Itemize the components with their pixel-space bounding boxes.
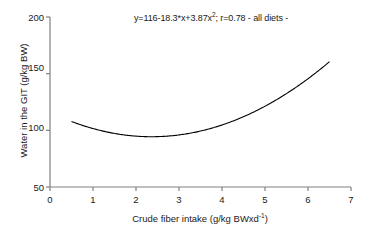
x-axis-ticks <box>50 187 351 191</box>
chart-figure: y=116-18.3*x+3.87x2; r=0.78 - all diets … <box>0 0 385 240</box>
plot-area <box>0 0 385 240</box>
regression-curve <box>72 62 330 137</box>
axis-lines <box>50 17 351 187</box>
